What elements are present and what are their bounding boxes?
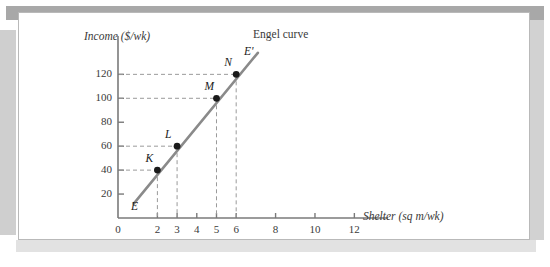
data-point-l[interactable] (174, 143, 181, 150)
x-axis-label: Shelter (sq m/wk) (363, 210, 443, 222)
curve-end-label-e-prime: E' (244, 45, 253, 57)
point-label-n: N (224, 56, 232, 68)
x-tick-label: 10 (301, 223, 329, 235)
data-point-m[interactable] (213, 95, 220, 102)
x-tick-label: 0 (104, 223, 132, 235)
y-tick-label: 120 (80, 67, 112, 79)
engel-curve-chart: Income ($/wk) Shelter (sq m/wk) Engel cu… (0, 0, 550, 267)
y-tick-label: 20 (80, 187, 112, 199)
curve-start-label-e: E (131, 200, 138, 212)
y-tick-label: 40 (80, 163, 112, 175)
y-tick-label: 80 (80, 115, 112, 127)
point-label-k: K (145, 152, 153, 164)
y-tick-label: 100 (80, 91, 112, 103)
data-point-k[interactable] (154, 167, 161, 174)
x-tick-label: 8 (262, 223, 290, 235)
engel-curve-annotation: Engel curve (253, 28, 308, 40)
x-tick-label: 12 (340, 223, 368, 235)
data-point-n[interactable] (233, 71, 240, 78)
figure-canvas: Income ($/wk) Shelter (sq m/wk) Engel cu… (0, 0, 550, 267)
y-tick-label: 60 (80, 139, 112, 151)
x-tick-label: 6 (222, 223, 250, 235)
point-label-m: M (204, 80, 214, 92)
point-label-l: L (165, 128, 171, 140)
y-axis-label: Income ($/wk) (84, 30, 150, 42)
